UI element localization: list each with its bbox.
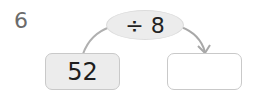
input-value: 52 xyxy=(67,58,98,86)
arc-from-input xyxy=(83,27,110,54)
operation-label: ÷ 8 xyxy=(125,13,164,38)
input-box: 52 xyxy=(45,53,120,90)
operation-oval: ÷ 8 xyxy=(106,10,184,40)
answer-box[interactable] xyxy=(167,53,242,90)
